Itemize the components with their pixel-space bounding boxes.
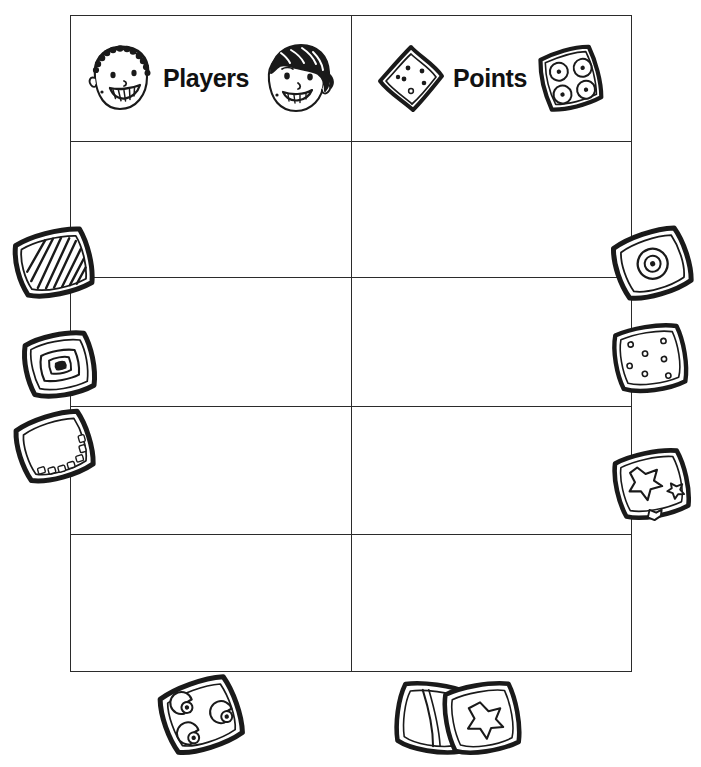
table-cell-points-2[interactable] <box>351 277 633 406</box>
table-header-points: Points <box>351 16 633 141</box>
table-cell-points-4[interactable] <box>351 534 633 673</box>
score-table: Players <box>70 15 632 672</box>
column-header-label-players: Players <box>163 64 249 93</box>
table-header-players: Players <box>71 16 351 141</box>
spiral-dots-cookie-decoration <box>155 672 251 764</box>
table-cell-players-3[interactable] <box>71 406 351 534</box>
table-cell-points-1[interactable] <box>351 141 633 277</box>
circles-cookie-icon <box>533 41 609 117</box>
worksheet-page: Players <box>0 0 701 767</box>
table-cell-points-3[interactable] <box>351 406 633 534</box>
girl-face-icon <box>255 39 339 119</box>
table-cell-players-2[interactable] <box>71 277 351 406</box>
boy-face-icon <box>83 40 157 118</box>
table-cell-players-4[interactable] <box>71 534 351 673</box>
dotted-cracker-icon <box>375 43 447 115</box>
column-header-label-points: Points <box>453 64 527 93</box>
overlapping-cookies-decoration <box>388 675 528 767</box>
table-cell-players-1[interactable] <box>71 141 351 277</box>
